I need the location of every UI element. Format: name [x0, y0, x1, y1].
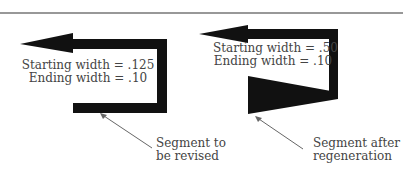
right-caption: Starting width = .50 Ending width = .10 [213, 42, 333, 68]
left-leader-arrowhead [100, 113, 107, 119]
left-callout-line2: be revised [156, 150, 226, 163]
right-ending-width: Ending width = .10 [213, 55, 333, 68]
left-vertical-segment [157, 39, 167, 113]
right-leader-line [256, 117, 303, 149]
right-top-segment [247, 29, 338, 39]
left-caption: Starting width = .125 Ending width = .10 [18, 59, 158, 85]
left-callout: Segment to be revised [156, 137, 226, 163]
left-arrowhead [20, 33, 73, 53]
left-top-segment [72, 39, 167, 49]
left-segment-to-be-revised [73, 103, 167, 113]
polyline-width-diagram: Starting width = .125 Ending width = .10… [0, 0, 408, 177]
right-polyline-arrow [199, 25, 338, 114]
right-leader-arrowhead [255, 116, 262, 122]
left-ending-width: Ending width = .10 [18, 72, 158, 85]
right-callout-line2: regeneration [313, 150, 400, 163]
right-tapered-segment [248, 76, 338, 114]
left-leader-line [101, 114, 152, 148]
right-callout: Segment after regeneration [313, 137, 400, 163]
